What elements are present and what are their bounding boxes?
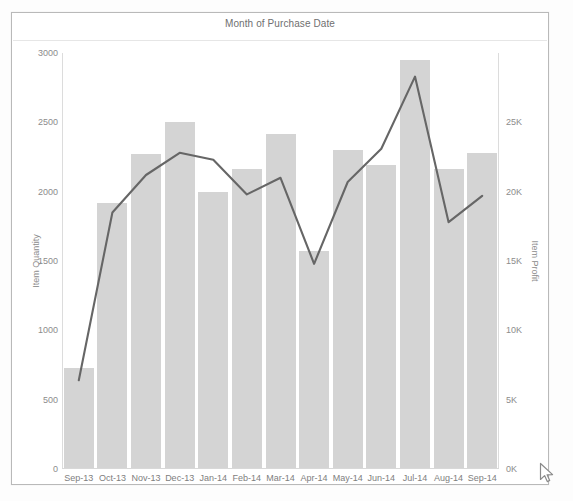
screenshot-root: Month of Purchase Date Item Quantity 050… <box>0 0 573 501</box>
chart-frame: Month of Purchase Date Item Quantity 050… <box>11 12 549 485</box>
x-tick-oct-13: Oct-13 <box>95 473 129 483</box>
x-tick-sep-13: Sep-13 <box>62 473 96 483</box>
y-axis-right-title: Item Profit <box>529 240 539 281</box>
y-axis-left: Item Quantity 050010001500200025003000 <box>23 53 62 469</box>
bar-mar-14[interactable] <box>266 134 296 469</box>
x-tick-sep-14: Sep-14 <box>465 473 499 483</box>
y-tick-left-3000: 3000 <box>38 48 58 58</box>
x-tick-may-14: May-14 <box>331 473 365 483</box>
x-tick-jul-14: Jul-14 <box>398 473 432 483</box>
x-tick-nov-13: Nov-13 <box>129 473 163 483</box>
bar-sep-14[interactable] <box>467 153 497 469</box>
bar-jun-14[interactable] <box>366 165 396 469</box>
x-tick-aug-14: Aug-14 <box>432 473 466 483</box>
bar-dec-13[interactable] <box>165 122 195 469</box>
bar-jan-14[interactable] <box>198 192 228 469</box>
bar-jul-14[interactable] <box>400 60 430 469</box>
bar-apr-14[interactable] <box>299 251 329 469</box>
y-axis-right: Item Profit 0K5K10K15K20K25K <box>500 53 546 469</box>
y-tick-left-500: 500 <box>43 395 58 405</box>
y-tick-left-1000: 1000 <box>38 325 58 335</box>
chart-title: Month of Purchase Date <box>12 18 548 29</box>
x-axis: Sep-13Oct-13Nov-13Dec-13Jan-14Feb-14Mar-… <box>62 471 499 489</box>
y-tick-right-5K: 5K <box>506 395 517 405</box>
x-axis-baseline <box>62 468 499 469</box>
y-tick-right-20K: 20K <box>506 187 522 197</box>
x-tick-mar-14: Mar-14 <box>264 473 298 483</box>
x-tick-jun-14: Jun-14 <box>364 473 398 483</box>
plot-area <box>62 53 499 469</box>
y-tick-right-25K: 25K <box>506 117 522 127</box>
y-tick-left-2500: 2500 <box>38 117 58 127</box>
bar-aug-14[interactable] <box>434 169 464 469</box>
y-tick-right-10K: 10K <box>506 325 522 335</box>
x-tick-dec-13: Dec-13 <box>163 473 197 483</box>
y-tick-left-2000: 2000 <box>38 187 58 197</box>
title-divider <box>13 40 547 41</box>
bar-oct-13[interactable] <box>97 203 127 469</box>
bar-feb-14[interactable] <box>232 169 262 469</box>
bar-series-item-quantity <box>62 53 499 469</box>
x-tick-apr-14: Apr-14 <box>297 473 331 483</box>
y-tick-left-0: 0 <box>53 464 58 474</box>
bar-sep-13[interactable] <box>64 368 94 469</box>
y-tick-right-15K: 15K <box>506 256 522 266</box>
bar-nov-13[interactable] <box>131 154 161 469</box>
mouse-pointer-icon <box>539 462 555 484</box>
bar-may-14[interactable] <box>333 150 363 469</box>
x-tick-feb-14: Feb-14 <box>230 473 264 483</box>
x-tick-jan-14: Jan-14 <box>196 473 230 483</box>
y-tick-right-0K: 0K <box>506 464 517 474</box>
y-tick-left-1500: 1500 <box>38 256 58 266</box>
